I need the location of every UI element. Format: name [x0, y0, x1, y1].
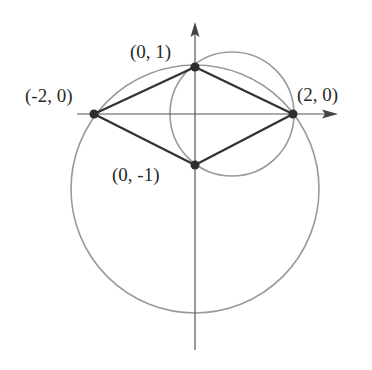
label-vertex-c: (2, 0)	[297, 84, 338, 106]
vertex-a	[90, 110, 99, 119]
label-vertex-a: (-2, 0)	[25, 85, 72, 107]
vertex-b	[191, 63, 200, 72]
label-vertex-b: (0, 1)	[130, 41, 171, 63]
geometry-diagram: (-2, 0) (0, 1) (2, 0) (0, -1)	[0, 0, 372, 370]
edge-d-a	[94, 114, 195, 165]
label-vertex-d: (0, -1)	[112, 164, 159, 186]
edge-a-b	[94, 67, 195, 114]
vertex-d	[191, 161, 200, 170]
edge-b-c	[195, 67, 293, 114]
edge-c-d	[195, 114, 293, 165]
vertex-c	[289, 110, 298, 119]
